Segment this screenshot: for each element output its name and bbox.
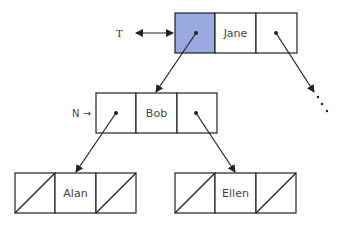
node-alan: Alan [15, 173, 136, 213]
root-pointer-label: T [116, 28, 123, 39]
node-jane: Jane [175, 13, 297, 53]
node-value: Jane [223, 27, 248, 40]
tree-diagram: T Jane N → Bob Alan [0, 0, 339, 227]
node-value: Ellen [222, 187, 249, 200]
current-pointer-label: N → [72, 108, 91, 119]
node-bob: Bob [96, 93, 217, 133]
node-value: Bob [146, 107, 167, 120]
node-ellen: Ellen [175, 173, 296, 213]
node-value: Alan [63, 187, 87, 200]
continuation-dots-icon [317, 96, 328, 112]
